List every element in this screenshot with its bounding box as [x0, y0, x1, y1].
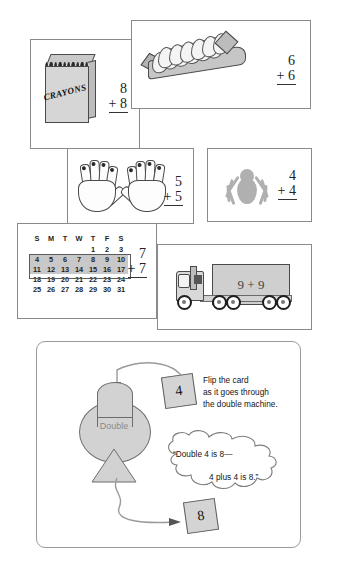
instruction-line: Flip the card — [203, 374, 299, 386]
calendar-day: 1 — [86, 244, 100, 254]
hands-illustration — [74, 156, 170, 218]
fact-6-plus-6: 6 + 6 — [277, 54, 296, 85]
double-machine-body: Double — [79, 377, 149, 482]
hand-left — [74, 158, 120, 214]
egg-carton-panel: 6 + 6 — [131, 20, 311, 109]
truck-wheel — [177, 295, 192, 310]
weekday-header: M — [44, 233, 58, 244]
calendar-day: 31 — [114, 284, 128, 294]
addend-top: 5 — [164, 175, 183, 190]
calendar-day: 2 — [100, 244, 114, 254]
palm — [128, 180, 166, 212]
instruction-line: as it goes through — [203, 386, 299, 398]
addend-bottom: + 5 — [164, 190, 183, 207]
addend-bottom: + 4 — [278, 184, 297, 201]
speech-line-2: 4 plus 4 is 8.” — [209, 472, 258, 482]
calendar-grid: S M T W T F S 1 — [30, 233, 128, 294]
calendar-day — [30, 244, 44, 254]
weekday-header: T — [58, 233, 72, 244]
instruction-line: the double machine. — [203, 398, 299, 410]
calendar-day: 26 — [44, 284, 58, 294]
addend-bottom: + 6 — [277, 69, 296, 86]
weekday-header: S — [114, 233, 128, 244]
double-machine-panel: Double 4 Flip the card as it goes throug… — [36, 341, 301, 548]
hands-panel: 5 + 5 — [67, 148, 194, 224]
calendar-day — [58, 244, 72, 254]
calendar-day: 30 — [100, 284, 114, 294]
calendar-day: 27 — [58, 284, 72, 294]
egg-carton-illustration — [140, 33, 258, 91]
calendar-header-row: S M T W T F S — [30, 233, 128, 244]
crayon-box-panel: CRAYONS 8 + 8 — [30, 39, 140, 149]
calendar-day: 28 — [72, 284, 86, 294]
addend-top: 8 — [109, 82, 128, 97]
speech-line-1: “Double 4 is 8— — [173, 449, 233, 459]
weekday-header: F — [100, 233, 114, 244]
truck-window — [178, 274, 190, 288]
addend-top: 6 — [277, 54, 296, 69]
fact-7-plus-7: 7 + 7 — [128, 247, 147, 278]
machine-label: Double — [79, 421, 149, 431]
input-card[interactable]: 4 — [161, 373, 197, 409]
worksheet-canvas: CRAYONS 8 + 8 — [0, 0, 337, 566]
calendar-day: 29 — [86, 284, 100, 294]
spider-head — [240, 169, 254, 183]
fact-4-plus-4: 4 + 4 — [278, 169, 297, 200]
addend-bottom: + 8 — [109, 97, 128, 114]
spider-icon — [224, 161, 270, 209]
fact-8-plus-8: 8 + 8 — [109, 82, 128, 113]
output-card[interactable]: 8 — [183, 498, 219, 534]
calendar-day — [44, 244, 58, 254]
truck-cab-panel — [194, 275, 202, 284]
machine-opening — [97, 382, 133, 418]
weekday-header: W — [72, 233, 86, 244]
calendar-day: 25 — [30, 284, 44, 294]
calendar-week-row: 25 26 27 28 29 30 31 — [30, 284, 128, 294]
truck-wheel — [276, 295, 291, 310]
instruction-text: Flip the card as it goes through the dou… — [203, 374, 299, 410]
truck-illustration: 9 + 9 — [174, 262, 299, 318]
fact-5-plus-5: 5 + 5 — [164, 175, 183, 206]
addend-bottom: + 7 — [128, 262, 147, 279]
truck-wheel — [226, 295, 241, 310]
weekday-header: S — [30, 233, 44, 244]
calendar-week-row: 1 2 3 — [30, 244, 128, 254]
truck-panel: 9 + 9 — [157, 244, 312, 330]
addend-top: 7 — [128, 247, 147, 262]
weekday-header: T — [86, 233, 100, 244]
addend-top: 4 — [278, 169, 297, 184]
truck-wheel — [262, 295, 277, 310]
calendar-highlight-outline — [29, 254, 131, 279]
output-arrow-icon — [111, 478, 191, 534]
calendar-day — [72, 244, 86, 254]
palm — [78, 180, 116, 212]
spider-panel: 4 + 4 — [207, 148, 312, 222]
calendar-panel: S M T W T F S 1 — [17, 223, 157, 319]
truck-wheel — [212, 295, 227, 310]
calendar-day: 3 — [114, 244, 128, 254]
crayon-box-illustration: CRAYONS — [39, 49, 101, 129]
